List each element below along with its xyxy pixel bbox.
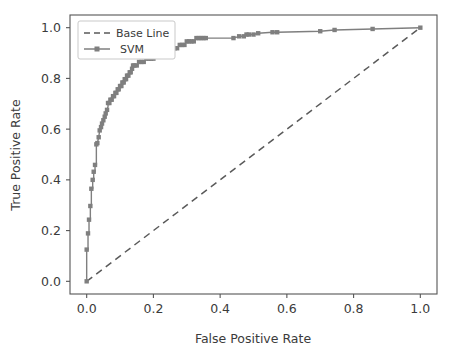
svm-data-marker (318, 29, 322, 33)
x-tick-label: 0.0 (77, 301, 97, 316)
svm-data-marker (95, 141, 99, 145)
legend-marker-svm (95, 47, 100, 52)
svm-data-marker (89, 187, 93, 191)
x-axis-ticks: 0.00.20.40.60.81.0 (77, 294, 431, 316)
plot-canvas: 0.00.20.40.60.81.0 0.00.20.40.60.81.0 Fa… (0, 0, 454, 352)
svm-data-marker (270, 30, 274, 34)
svm-data-marker (275, 30, 279, 34)
svm-data-marker (370, 27, 374, 31)
roc-curve-figure: 0.00.20.40.60.81.0 0.00.20.40.60.81.0 Fa… (0, 0, 454, 352)
x-tick-label: 0.2 (143, 301, 163, 316)
x-tick-label: 0.8 (344, 301, 364, 316)
svm-data-marker (204, 36, 208, 40)
x-axis-label: False Positive Rate (195, 331, 311, 346)
svm-data-marker (93, 163, 97, 167)
svm-data-marker (105, 108, 109, 112)
svm-data-marker (256, 31, 260, 35)
svm-data-marker (90, 178, 94, 182)
y-tick-label: 0.8 (41, 71, 61, 86)
y-tick-label: 1.0 (41, 20, 61, 35)
svm-data-marker (418, 25, 422, 29)
y-tick-label: 0.0 (41, 274, 61, 289)
legend-label-base-line: Base Line (116, 27, 169, 40)
svm-data-marker (332, 28, 336, 32)
x-tick-label: 1.0 (410, 301, 430, 316)
x-tick-label: 0.4 (210, 301, 230, 316)
x-tick-label: 0.6 (277, 301, 297, 316)
y-tick-label: 0.2 (41, 223, 61, 238)
svm-data-marker (247, 32, 251, 36)
y-axis-ticks: 0.00.20.40.60.81.0 (41, 20, 70, 289)
svm-data-marker (88, 204, 92, 208)
svm-data-marker (96, 135, 100, 139)
legend: Base Line SVM (78, 21, 175, 59)
svm-data-marker (251, 32, 255, 36)
y-axis-label: True Positive Rate (8, 99, 23, 212)
svm-data-marker (87, 217, 91, 221)
svm-data-marker (84, 247, 88, 251)
y-tick-label: 0.6 (41, 122, 61, 137)
svm-data-marker (231, 36, 235, 40)
svm-data-marker (237, 34, 241, 38)
legend-label-svm: SVM (120, 43, 144, 56)
svm-data-marker (84, 279, 88, 283)
svm-data-marker (86, 231, 90, 235)
svm-data-marker (91, 170, 95, 174)
y-tick-label: 0.4 (41, 172, 61, 187)
